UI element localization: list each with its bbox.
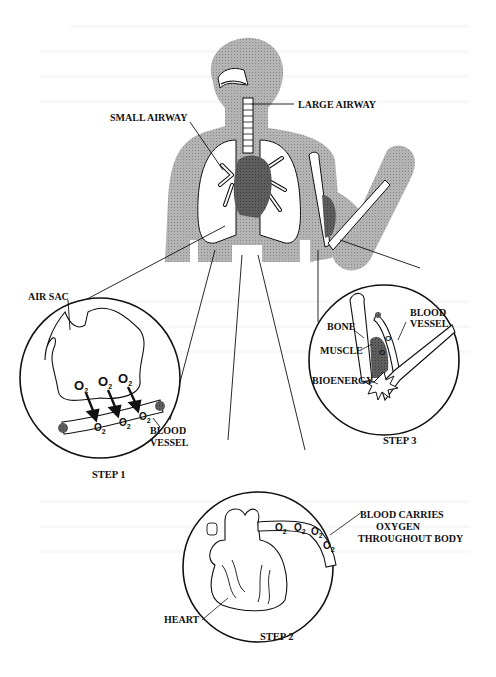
step1-title: STEP 1 (92, 469, 126, 480)
step1-blood-vessel-label-2: VESSEL (150, 437, 189, 448)
step3-title: STEP 3 (383, 435, 417, 446)
step1-panel: O2 O2 O2 O2 O2 O2 AIR SAC BLOOD VESSEL S… (20, 291, 189, 480)
step1-blood-vessel-label: BLOOD (150, 425, 186, 436)
air-sac-label: AIR SAC (28, 291, 69, 302)
o2-label: O (379, 348, 385, 357)
step3-blood-vessel-label-2: VESSEL (410, 318, 449, 329)
muscle-label: MUSCLE (320, 345, 363, 356)
step3-panel: O O BONE MUSCLE BIOENERGY BLOOD VESSEL S… (309, 285, 459, 446)
heart-label: HEART (164, 614, 200, 625)
small-airway-label: SMALL AIRWAY (110, 112, 188, 123)
respiration-diagram: LARGE AIRWAY SMALL AIRWAY O2 O2 O2 O2 O2… (0, 0, 496, 677)
trachea (243, 98, 253, 153)
step2-panel: O2 O2 O2 O2 BLOOD CARRIES OXYGEN THROUGH… (164, 492, 464, 642)
step3-blood-vessel-label: BLOOD (410, 307, 446, 318)
step2-title: STEP 2 (260, 631, 294, 642)
large-airway-label: LARGE AIRWAY (298, 99, 377, 110)
blood-carries-oxygen-label-2: OXYGEN (376, 521, 421, 532)
blood-carries-oxygen-label-3: THROUGHOUT BODY (358, 533, 464, 544)
blood-carries-oxygen-label: BLOOD CARRIES (360, 509, 444, 520)
bone-label: BONE (327, 321, 356, 332)
bioenergy-label: BIOENERGY (312, 375, 374, 386)
o2-label: O (385, 334, 391, 343)
